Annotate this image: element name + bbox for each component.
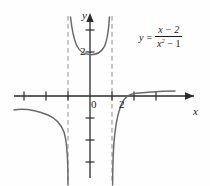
y-axis-label: y xyxy=(82,10,87,21)
equation-denominator: x2 − 1 xyxy=(155,37,182,49)
curve-left-branch xyxy=(14,109,68,185)
x-axis-arrow xyxy=(185,92,194,100)
x-axis-label: x xyxy=(193,106,198,117)
equation-equals-sign: = xyxy=(146,32,152,43)
figure-container: y x 0 2 2 y = x − 2 x2 − 1 xyxy=(0,0,210,186)
x-tick-label-2: 2 xyxy=(119,99,125,110)
equation-fraction: x − 2 x2 − 1 xyxy=(155,25,182,49)
equation-numerator: x − 2 xyxy=(156,25,181,36)
y-axis-arrow xyxy=(86,13,93,22)
origin-label: 0 xyxy=(91,99,97,110)
equation-lhs: y xyxy=(139,32,143,43)
equation-annotation: y = x − 2 x2 − 1 xyxy=(139,25,182,49)
y-tick-label-2: 2 xyxy=(80,46,86,57)
denominator-rest: − 1 xyxy=(165,38,181,49)
